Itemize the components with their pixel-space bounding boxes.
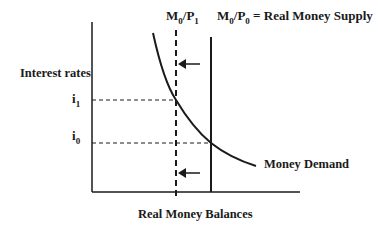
x-axis-label: Real Money Balances <box>138 207 253 222</box>
tick-label-i1: i1 <box>72 91 80 109</box>
money-demand-curve <box>153 33 256 166</box>
tick-label-i0: i0 <box>72 128 80 146</box>
money-demand-label: Money Demand <box>264 157 349 172</box>
shift-arrow-lower <box>178 168 200 178</box>
real-money-supply-label: M0/P0 = Real Money Supply <box>217 8 373 26</box>
money-market-diagram <box>0 0 378 230</box>
shift-arrow-upper <box>178 59 200 69</box>
new-money-supply-label: M0/P1 <box>166 8 199 26</box>
y-axis-label: Interest rates <box>20 66 91 81</box>
